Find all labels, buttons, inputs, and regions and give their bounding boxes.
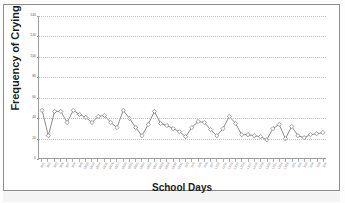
data-point-marker (246, 133, 250, 137)
y-gridline (39, 57, 326, 58)
data-point-marker (65, 120, 69, 124)
y-axis-tick-label: 20 (32, 137, 36, 140)
data-point-marker (277, 122, 281, 126)
data-point-marker (315, 132, 319, 136)
x-axis-tick-label: 11/19 (259, 162, 265, 170)
x-axis-tick-label: 10/17 (115, 162, 121, 170)
x-axis-tick-label: 11/25 (284, 162, 290, 170)
x-axis-tick-label: 11/14 (240, 162, 246, 170)
data-point-marker (146, 122, 150, 126)
x-axis-tick-label: 11/10 (215, 162, 221, 170)
x-axis-tick-label: 12/5 (316, 162, 321, 169)
x-axis-tick-label: 10/8 (72, 162, 77, 169)
data-point-marker (165, 123, 169, 127)
data-point-marker (271, 126, 275, 130)
y-axis-tick-label: 60 (32, 96, 36, 99)
y-gridline (39, 36, 326, 37)
y-axis-tick-mark (37, 118, 39, 119)
data-point-marker (308, 133, 312, 137)
y-axis-title: Frequency of Crying (9, 0, 21, 120)
x-axis-tick-label: 11/20 (265, 162, 271, 170)
y-axis-tick-mark (37, 77, 39, 78)
data-point-marker (77, 112, 81, 116)
plot-area: 020406080100120140 (38, 16, 326, 159)
y-gridline (39, 118, 326, 119)
y-axis-tick-label: 40 (32, 116, 36, 119)
data-point-marker (321, 131, 325, 135)
x-axis-tick-label: 10/29 (165, 162, 171, 170)
x-axis-tick-label: 11/4 (191, 162, 196, 168)
data-point-marker (159, 121, 163, 125)
y-gridline (39, 77, 326, 78)
data-point-marker (40, 108, 44, 112)
data-point-marker (71, 108, 75, 112)
data-point-marker (252, 134, 256, 138)
x-axis-tick-label: 12/4 (310, 162, 315, 169)
y-axis-tick-mark (37, 16, 39, 17)
data-point-marker (52, 109, 56, 113)
y-axis-tick-label: 0 (34, 157, 36, 160)
chart-figure: Frequency of Crying 020406080100120140 1… (0, 0, 345, 203)
y-axis-tick-label: 100 (30, 55, 36, 58)
data-point-marker (171, 126, 175, 130)
x-axis-tick-label: 10/3 (53, 162, 58, 169)
y-axis-tick-label: 140 (30, 14, 36, 17)
y-gridline (39, 98, 326, 99)
data-point-marker (46, 134, 50, 138)
x-axis-tick-label: 10/14 (96, 162, 102, 170)
y-gridline (39, 16, 326, 17)
y-axis-tick-mark (37, 36, 39, 37)
y-axis-tick-label: 120 (30, 35, 36, 38)
y-axis-tick-mark (37, 57, 39, 58)
x-axis-tick-label: 11/5 (197, 162, 202, 168)
x-axis-tick-label: 10/2 (47, 162, 52, 169)
y-gridline (39, 139, 326, 140)
data-point-marker (152, 109, 156, 113)
data-point-marker (59, 109, 63, 113)
y-axis-tick-mark (37, 98, 39, 99)
x-axis-tick-label: 10/23 (140, 162, 146, 170)
x-axis-tick-labels: 10/110/210/310/610/710/810/910/1010/1310… (38, 162, 326, 182)
y-axis-tick-label: 80 (32, 76, 36, 79)
y-axis-tick-mark (37, 139, 39, 140)
x-axis-title: School Days (38, 182, 326, 193)
data-point-marker (240, 133, 244, 137)
x-axis-tick-label: 12/1 (291, 162, 296, 169)
